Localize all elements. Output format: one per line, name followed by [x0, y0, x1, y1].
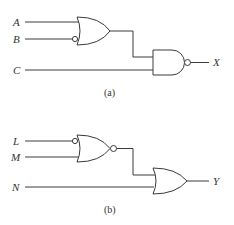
or-gate-a — [77, 17, 110, 45]
input-label-m: M — [10, 151, 21, 163]
caption-b: (b) — [104, 204, 116, 216]
input-label-n: N — [11, 181, 20, 193]
or-gate-b — [153, 168, 187, 194]
input-label-b: B — [13, 33, 20, 45]
logic-diagram: A B C X (a) L M N Y (b) — [0, 0, 234, 225]
circuit-a: A B C X (a) — [12, 16, 221, 99]
output-label-x: X — [212, 56, 221, 68]
caption-a: (a) — [104, 87, 115, 99]
nand-gate — [153, 50, 184, 75]
nand-output-bubble — [185, 60, 191, 66]
wire-nor-to-or — [117, 149, 156, 176]
input-label-l: L — [12, 135, 19, 147]
nor-gate — [77, 135, 110, 162]
inverter-bubble-b — [72, 36, 77, 41]
wire-or-to-nand — [110, 31, 153, 57]
nor-output-bubble — [111, 146, 117, 152]
inverter-bubble-l — [72, 138, 77, 143]
input-label-c: C — [13, 64, 21, 76]
circuit-b: L M N Y (b) — [10, 135, 221, 216]
input-label-a: A — [12, 16, 20, 28]
output-label-y: Y — [213, 175, 221, 187]
